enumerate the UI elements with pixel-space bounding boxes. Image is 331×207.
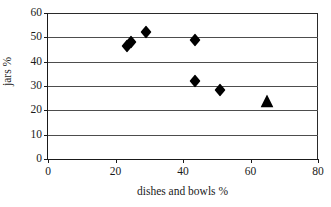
plot-inner xyxy=(48,13,318,159)
x-axis-label-60: 60 xyxy=(245,166,257,178)
y-axis-title: jars % xyxy=(2,57,14,86)
x-axis-label-0: 0 xyxy=(45,166,51,178)
y-axis-label-50: 50 xyxy=(31,32,43,44)
x-axis-label-20: 20 xyxy=(110,166,122,178)
x-axis-tick-80 xyxy=(318,159,319,163)
data-point-diamond-0-3 xyxy=(189,33,200,46)
y-axis-tick-60 xyxy=(44,13,48,14)
y-axis-label-40: 40 xyxy=(31,56,43,68)
y-axis-label-10: 10 xyxy=(31,129,43,141)
plot-area: 0102030405060020406080 xyxy=(47,13,318,160)
y-axis-label-0: 0 xyxy=(36,153,42,165)
x-axis-tick-40 xyxy=(183,159,184,163)
y-axis-tick-50 xyxy=(44,37,48,38)
y-axis-tick-10 xyxy=(44,135,48,136)
data-point-diamond-0-4 xyxy=(189,75,200,88)
x-axis-tick-0 xyxy=(48,159,49,163)
scatter-chart: 0102030405060020406080 dishes and bowls … xyxy=(0,0,331,207)
data-point-diamond-0-1 xyxy=(125,36,136,49)
gridline-y-40 xyxy=(48,62,318,63)
y-axis-tick-20 xyxy=(44,110,48,111)
y-axis-tick-30 xyxy=(44,86,48,87)
y-axis-label-60: 60 xyxy=(31,7,43,19)
y-axis-label-30: 30 xyxy=(31,80,43,92)
gridline-y-60 xyxy=(48,13,318,14)
gridline-y-10 xyxy=(48,135,318,136)
x-axis-tick-60 xyxy=(251,159,252,163)
data-point-diamond-0-2 xyxy=(140,26,151,39)
x-axis-label-80: 80 xyxy=(312,166,324,178)
y-axis-label-20: 20 xyxy=(31,105,43,117)
gridline-y-50 xyxy=(48,37,318,38)
y-axis-tick-40 xyxy=(44,62,48,63)
data-point-triangle-1-0 xyxy=(261,94,274,107)
x-axis-label-40: 40 xyxy=(177,166,189,178)
x-axis-title: dishes and bowls % xyxy=(47,186,318,198)
gridline-y-20 xyxy=(48,110,318,111)
data-point-diamond-0-5 xyxy=(215,83,226,96)
gridline-y-30 xyxy=(48,86,318,87)
x-axis-tick-20 xyxy=(116,159,117,163)
